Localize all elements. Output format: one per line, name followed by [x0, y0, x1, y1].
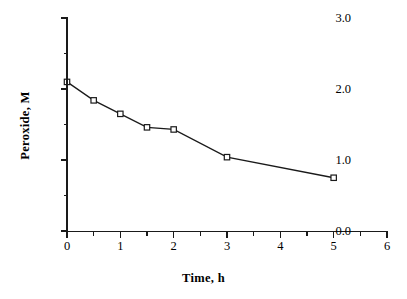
x-tick-major: [66, 232, 67, 238]
x-tick-major: [280, 232, 281, 238]
x-tick-label: 2: [154, 240, 194, 253]
y-tick-major: [61, 159, 67, 160]
y-tick-major: [61, 17, 67, 18]
y-tick-minor: [64, 53, 68, 54]
y-tick-label: 2.0: [305, 83, 351, 96]
y-axis-ticks: [51, 0, 67, 299]
data-point-marker: [91, 98, 96, 103]
x-tick-minor: [93, 232, 94, 236]
data-point-marker: [171, 127, 176, 132]
x-tick-label: 3: [207, 240, 247, 253]
y-tick-label: 0.0: [305, 225, 351, 238]
x-tick-major: [226, 232, 227, 238]
series-line: [67, 82, 334, 178]
y-tick-major: [61, 88, 67, 89]
y-axis-title: Peroxide, M: [18, 46, 33, 206]
x-tick-major: [120, 232, 121, 238]
data-point-marker: [224, 154, 229, 159]
x-tick-minor: [146, 232, 147, 236]
data-point-marker: [118, 111, 123, 116]
x-tick-minor: [200, 232, 201, 236]
x-tick-minor: [360, 232, 361, 236]
y-tick-minor: [64, 195, 68, 196]
x-tick-label: 1: [100, 240, 140, 253]
x-tick-label: 0: [47, 240, 87, 253]
data-point-marker: [331, 175, 336, 180]
chart-figure: 0.01.02.03.0 0123456 Peroxide, M Time, h: [0, 0, 407, 299]
x-tick-major: [386, 232, 387, 238]
y-tick-label: 3.0: [305, 12, 351, 25]
data-point-marker: [144, 125, 149, 130]
x-tick-major: [173, 232, 174, 238]
x-tick-minor: [253, 232, 254, 236]
y-tick-label: 1.0: [305, 154, 351, 167]
x-tick-label: 6: [367, 240, 407, 253]
x-axis-title: Time, h: [0, 271, 407, 286]
y-tick-minor: [64, 124, 68, 125]
x-tick-label: 4: [260, 240, 300, 253]
x-tick-label: 5: [314, 240, 354, 253]
